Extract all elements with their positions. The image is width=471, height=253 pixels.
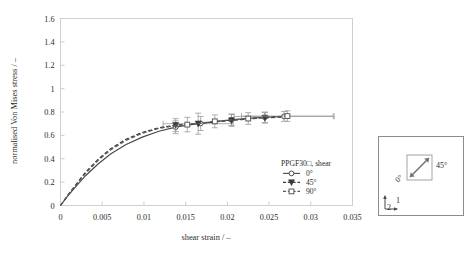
x-tick-label: 0.03 xyxy=(304,213,318,222)
data-marker-square xyxy=(289,189,294,194)
shear-stress-strain-chart: 00.20.40.60.811.21.41.6 00.0050.010.0150… xyxy=(0,0,471,253)
inset-axis-label-1: 1 xyxy=(396,196,400,205)
orientation-inset-diagram: 45° 0° 2 1 xyxy=(379,137,464,216)
data-marker-square xyxy=(285,114,290,119)
y-tick-label: 0.2 xyxy=(44,178,54,187)
data-marker-square xyxy=(212,119,217,124)
legend-entry-label: 0° xyxy=(306,169,313,178)
y-tick-label: 0.8 xyxy=(44,108,54,117)
x-axis-title: shear strain / – xyxy=(181,233,231,242)
inset-axis-label-2: 2 xyxy=(387,203,391,212)
y-tick-label: 1.2 xyxy=(44,61,54,70)
x-tick-label: 0.035 xyxy=(343,213,361,222)
y-tick-label: 1.6 xyxy=(44,15,54,24)
y-tick-label: 1 xyxy=(50,85,54,94)
x-tick-label: 0 xyxy=(58,213,62,222)
x-tick-label: 0.02 xyxy=(220,213,234,222)
y-tick-label: 0.4 xyxy=(44,155,54,164)
y-axis-title: normalised Von Mises stress / – xyxy=(10,57,19,164)
legend-title: PPGF30□, shear xyxy=(281,159,332,168)
x-tick-label: 0.01 xyxy=(137,213,151,222)
legend-entries: 0°45°90° xyxy=(283,169,317,196)
inset-label-45: 45° xyxy=(436,161,447,170)
y-tick-label: 1.4 xyxy=(44,38,54,47)
y-tick-label: 0.6 xyxy=(44,131,54,140)
y-tick-label: 0 xyxy=(50,202,54,211)
legend-entry-label: 45° xyxy=(306,178,317,187)
data-marker-square xyxy=(246,116,251,121)
x-tick-label: 0.025 xyxy=(260,213,278,222)
data-marker-square xyxy=(185,122,190,127)
inset-frame xyxy=(379,137,464,216)
x-tick-label: 0.005 xyxy=(93,213,111,222)
legend-entry-label: 90° xyxy=(306,187,317,196)
x-tick-label: 0.015 xyxy=(176,213,194,222)
data-marker-circle xyxy=(289,171,294,176)
chart-figure: 00.20.40.60.811.21.41.6 00.0050.010.0150… xyxy=(0,0,471,253)
